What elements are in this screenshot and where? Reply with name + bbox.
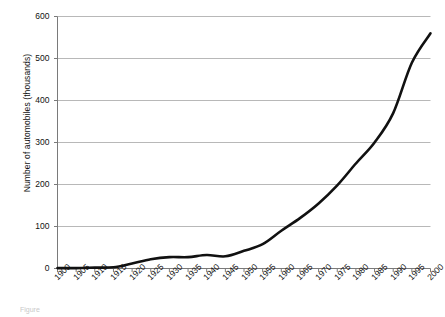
gridlines bbox=[58, 17, 431, 227]
y-tick-label: 200 bbox=[20, 180, 50, 189]
y-tick-label: 600 bbox=[20, 12, 50, 21]
y-tick-label: 500 bbox=[20, 54, 50, 63]
y-tick-label: 400 bbox=[20, 96, 50, 105]
y-axis-ticks bbox=[54, 17, 58, 269]
figure-caption: Figure bbox=[20, 306, 160, 315]
y-tick-label: 100 bbox=[20, 222, 50, 231]
y-tick-label: 300 bbox=[20, 138, 50, 147]
y-tick-label: 0 bbox=[20, 264, 50, 273]
y-axis-label: Number of automobiles (thousands) bbox=[22, 8, 32, 238]
data-series-line bbox=[58, 33, 431, 268]
